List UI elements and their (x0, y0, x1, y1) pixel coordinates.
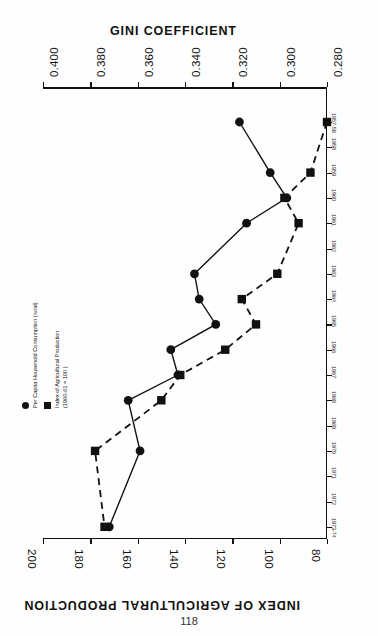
gini-tick-label: 0.320 (237, 47, 249, 77)
data-point-production (306, 168, 314, 176)
year-label: 1970 (331, 442, 337, 454)
year-label: 1958 (331, 138, 337, 150)
gini-tick (185, 82, 186, 87)
data-point-production (176, 371, 184, 379)
data-point-consumption (124, 396, 133, 405)
gini-tick-label: 0.340 (190, 47, 202, 77)
data-point-consumption (136, 447, 145, 456)
gini-tick-label: 0.280 (332, 47, 344, 77)
page-number: 118 (0, 615, 378, 627)
index-tick-label: 120 (215, 549, 227, 569)
data-point-production (91, 447, 99, 455)
data-point-production (273, 270, 281, 278)
gini-tick-label: 0.400 (48, 47, 60, 77)
gini-tick-label: 0.380 (95, 47, 107, 77)
index-tick (43, 539, 44, 544)
legend-label-production-base: (1960-61 = 100 ) (62, 366, 69, 408)
data-point-production (238, 295, 246, 303)
page: 0.4000.3800.3600.3400.3200.3000.280 2001… (0, 0, 378, 636)
index-tick (280, 539, 281, 544)
gini-tick (280, 82, 281, 87)
series-line-production (95, 122, 327, 527)
data-point-production (294, 219, 302, 227)
data-point-consumption (166, 345, 175, 354)
gini-axis-title: GINI COEFFICIENT (110, 24, 237, 38)
data-point-production (221, 346, 229, 354)
year-label: 1968 (331, 391, 337, 403)
year-label: 1959 (331, 164, 337, 176)
year-label: 1965 (331, 315, 337, 327)
square-marker-icon (44, 402, 51, 409)
chart-figure: 0.4000.3800.3600.3400.3200.3000.280 2001… (0, 0, 378, 636)
circle-marker-icon (22, 402, 29, 409)
year-label: 1972 (331, 493, 337, 505)
index-tick-label: 180 (73, 549, 85, 569)
year-label: 1967 (331, 366, 337, 378)
data-point-production (157, 396, 165, 404)
gini-tick-label: 0.300 (285, 47, 297, 77)
legend-label-production: Index of Agricultural Production (54, 331, 61, 408)
year-label: 1963 (331, 265, 337, 277)
year-label: 1961 (331, 214, 337, 226)
data-point-production (280, 194, 288, 202)
year-label: 1962 (331, 240, 337, 252)
data-point-consumption (190, 269, 199, 278)
index-tick-label: 80 (310, 549, 322, 562)
index-tick (232, 539, 233, 544)
index-tick (138, 539, 139, 544)
year-label: 1960 (331, 189, 337, 201)
data-point-consumption (195, 295, 204, 304)
gini-tick-label: 0.360 (143, 47, 155, 77)
gini-tick (90, 82, 91, 87)
gini-tick (327, 82, 328, 87)
index-tick (90, 539, 91, 544)
index-tick (185, 539, 186, 544)
index-tick-label: 200 (26, 549, 38, 569)
legend-label-consumption: Per Capita Household Consumption (rural) (32, 302, 39, 408)
chart-legend: Per Capita Household Consumption (rural)… (22, 190, 92, 420)
index-tick-label: 140 (168, 549, 180, 569)
data-point-consumption (242, 219, 251, 228)
year-label: 1971 (331, 467, 337, 479)
data-point-consumption (235, 118, 244, 127)
index-tick-label: 160 (121, 549, 133, 569)
gini-tick (43, 82, 44, 87)
data-point-consumption (211, 320, 220, 329)
index-tick (327, 539, 328, 544)
data-point-production (252, 320, 260, 328)
index-tick-label: 100 (263, 549, 275, 569)
year-label: 1966 (331, 341, 337, 353)
index-axis-title: INDEX OF AGRICULTURAL PRODUCTION (24, 598, 300, 612)
gini-tick (232, 82, 233, 87)
year-label: 1969 (331, 417, 337, 429)
gini-tick (138, 82, 139, 87)
year-label: 1973-74 (331, 518, 337, 538)
data-point-production (100, 523, 108, 531)
data-point-consumption (266, 168, 275, 177)
year-label: 1964 (331, 290, 337, 302)
year-label: 1957-58 (331, 113, 337, 133)
